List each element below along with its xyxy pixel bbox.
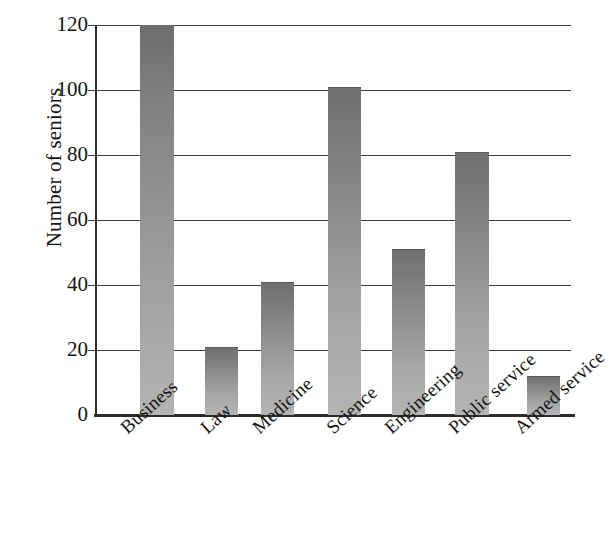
bar-top-edge <box>205 347 238 348</box>
y-tick-label: 60 <box>40 209 88 230</box>
plot-area <box>95 25 571 415</box>
y-tick-label: 40 <box>40 274 88 295</box>
bar-business <box>140 25 174 415</box>
tick-20 <box>88 350 96 351</box>
y-tick-label: 20 <box>40 339 88 360</box>
bar-science <box>328 87 361 415</box>
tick-80 <box>88 155 96 156</box>
bar-top-edge <box>392 249 425 250</box>
y-tick-label: 100 <box>40 79 88 100</box>
bar-top-edge <box>328 87 361 88</box>
tick-120 <box>88 25 96 26</box>
tick-60 <box>88 220 96 221</box>
bar-top-edge <box>527 376 560 377</box>
y-tick-label: 120 <box>40 14 88 35</box>
tick-40 <box>88 285 96 286</box>
bar-top-edge <box>261 282 294 283</box>
tick-100 <box>88 90 96 91</box>
y-tick-label: 0 <box>40 404 88 425</box>
bar-top-edge <box>455 152 489 153</box>
y-tick-label: 80 <box>40 144 88 165</box>
y-axis-tick-labels: 120 100 80 60 40 20 0 <box>36 0 88 415</box>
